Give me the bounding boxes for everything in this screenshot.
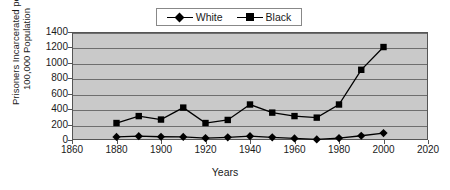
- data-point-black: [336, 101, 342, 107]
- legend-entry-white: White: [167, 12, 223, 23]
- x-tick-mark: [428, 140, 429, 144]
- x-tick-label: 2020: [406, 145, 450, 155]
- y-tick-label: 400: [28, 104, 68, 114]
- data-point-white: [357, 132, 365, 140]
- data-point-black: [291, 113, 297, 119]
- series-line-black: [117, 47, 384, 123]
- y-tick-label: 800: [28, 73, 68, 83]
- x-tick-label: 1860: [50, 145, 94, 155]
- data-point-black: [136, 113, 142, 119]
- legend-line-sample-white: [167, 12, 193, 22]
- data-point-black: [269, 109, 275, 115]
- y-tick-label: 1400: [28, 27, 68, 37]
- diamond-marker-icon: [175, 12, 185, 22]
- square-marker-icon: [246, 13, 254, 21]
- data-point-black: [380, 44, 386, 50]
- chart-container: White Black Prisoners Incarcerated per 1…: [0, 0, 450, 190]
- data-point-black: [180, 104, 186, 110]
- x-tick-label: 1980: [317, 145, 361, 155]
- legend-line-sample-black: [237, 12, 263, 22]
- data-point-black: [225, 117, 231, 123]
- data-point-white: [179, 133, 187, 141]
- y-tick-label: 200: [28, 120, 68, 130]
- x-tick-label: 2000: [362, 145, 406, 155]
- chart-legend: White Black: [156, 8, 302, 26]
- data-point-black: [113, 120, 119, 126]
- x-tick-label: 1960: [273, 145, 317, 155]
- data-point-white: [157, 133, 165, 141]
- x-tick-label: 1900: [139, 145, 183, 155]
- legend-label-white: White: [196, 12, 223, 23]
- x-tick-mark: [72, 140, 73, 144]
- data-point-white: [313, 135, 321, 143]
- data-point-white: [224, 133, 232, 141]
- data-point-black: [202, 120, 208, 126]
- data-point-black: [247, 101, 253, 107]
- x-tick-mark: [250, 140, 251, 144]
- data-point-white: [335, 134, 343, 142]
- y-tick-label: 1000: [28, 58, 68, 68]
- data-series-layer: [72, 32, 428, 140]
- x-tick-label: 1880: [95, 145, 139, 155]
- data-point-white: [135, 132, 143, 140]
- x-tick-mark: [384, 140, 385, 144]
- data-point-black: [358, 67, 364, 73]
- data-point-black: [158, 116, 164, 122]
- data-point-white: [112, 133, 120, 141]
- y-tick-label: 600: [28, 89, 68, 99]
- x-tick-label: 1920: [184, 145, 228, 155]
- y-tick-label: 1200: [28, 42, 68, 52]
- data-point-white: [290, 134, 298, 142]
- legend-label-black: Black: [266, 12, 292, 23]
- data-point-white: [268, 133, 276, 141]
- x-tick-label: 1940: [228, 145, 272, 155]
- data-point-white: [379, 129, 387, 137]
- data-point-black: [314, 114, 320, 120]
- data-point-white: [201, 134, 209, 142]
- data-point-white: [246, 132, 254, 140]
- legend-entry-black: Black: [237, 12, 292, 23]
- x-axis-title: Years: [0, 166, 450, 178]
